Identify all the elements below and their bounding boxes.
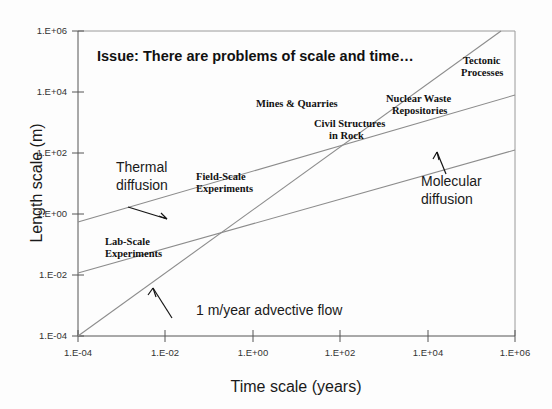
label-nuclear-waste-line1: Nuclear Waste — [386, 93, 452, 104]
label-mines-quarries: Mines & Quarries — [256, 98, 338, 109]
label-thermal-diffusion-line1: Thermal — [116, 159, 167, 175]
x-tick-label-5: 1.E+06 — [500, 347, 530, 358]
y-tick-label-0: 1.E+06 — [37, 25, 67, 36]
y-tick-label-5: 1.E-04 — [39, 330, 67, 341]
x-tick-label-4: 1.E+04 — [413, 347, 443, 358]
y-axis-title: Length scale (m) — [28, 123, 45, 242]
x-tick-label-0: 1.E-04 — [64, 347, 92, 358]
thermal-diffusion-arrowhead — [159, 213, 167, 219]
label-thermal-diffusion-line2: diffusion — [116, 177, 168, 193]
y-tick-label-4: 1.E-02 — [39, 269, 67, 280]
label-civil-structures-line2: in Rock — [329, 130, 364, 141]
label-field-scale-line2: Experiments — [196, 183, 253, 194]
label-civil-structures-line1: Civil Structures — [314, 118, 385, 129]
chart-title: Issue: There are problems of scale and t… — [97, 48, 414, 64]
x-tick-label-1: 1.E-02 — [151, 347, 179, 358]
label-nuclear-waste-line2: Repositories — [392, 105, 447, 116]
x-axis-title: Time scale (years) — [231, 378, 362, 395]
scale-time-log-log-chart: 1.E+06 1.E+04 1.E+02 1.E+00 1.E-02 1.E-0… — [0, 0, 552, 409]
advective-flow-arrowhead — [148, 288, 156, 297]
y-tick-label-1: 1.E+04 — [37, 86, 67, 97]
x-tick-label-2: 1.E+00 — [238, 347, 268, 358]
chart-page: 1.E+06 1.E+04 1.E+02 1.E+00 1.E-02 1.E-0… — [0, 0, 552, 409]
label-advective-flow: 1 m/year advective flow — [196, 302, 343, 318]
label-lab-scale-line1: Lab-Scale — [105, 236, 150, 247]
label-molecular-diffusion-line2: diffusion — [421, 191, 473, 207]
label-lab-scale-line2: Experiments — [105, 248, 162, 259]
advective-flow-arrow — [153, 288, 172, 318]
label-tectonic-line2: Processes — [461, 67, 503, 78]
x-tick-label-3: 1.E+02 — [325, 347, 355, 358]
label-molecular-diffusion-line1: Molecular — [421, 173, 482, 189]
label-tectonic-line1: Tectonic — [463, 55, 501, 66]
label-field-scale-line1: Field-Scale — [196, 171, 246, 182]
